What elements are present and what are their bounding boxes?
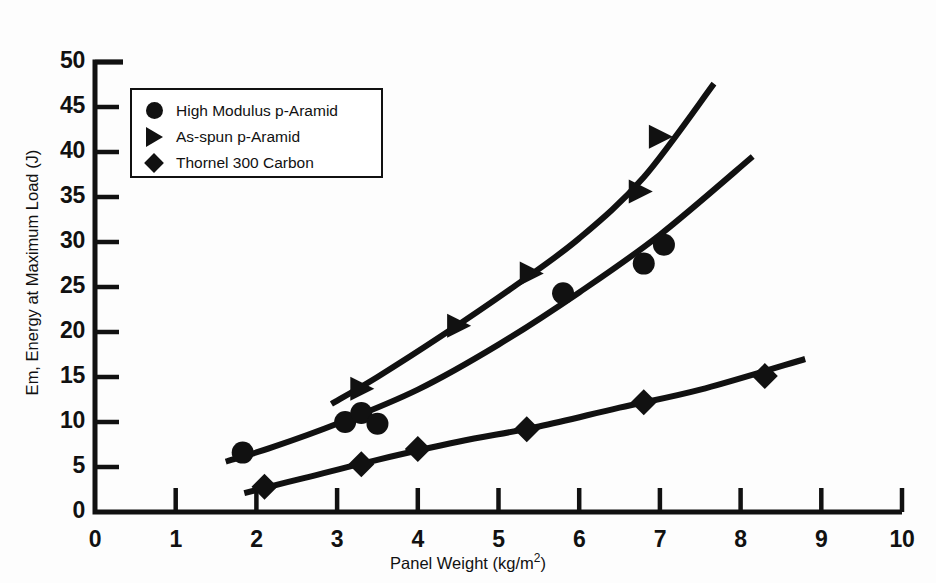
data-point-marker bbox=[552, 282, 574, 304]
legend-label: High Modulus p-Aramid bbox=[176, 102, 338, 120]
x-tick-label: 4 bbox=[398, 526, 438, 553]
diamond-marker-icon bbox=[132, 156, 176, 170]
x-tick-label: 10 bbox=[882, 526, 922, 553]
x-tick-label: 0 bbox=[75, 526, 115, 553]
legend-item-thornel-300-carbon: Thornel 300 Carbon bbox=[132, 149, 381, 176]
x-tick-label: 3 bbox=[317, 526, 357, 553]
chart-legend: High Modulus p-Aramid As-spun p-Aramid T… bbox=[130, 88, 383, 178]
y-tick-label: 50 bbox=[29, 47, 85, 74]
x-tick-label: 7 bbox=[640, 526, 680, 553]
data-point-marker bbox=[631, 389, 657, 415]
triangle-marker-icon bbox=[132, 127, 176, 147]
data-markers bbox=[232, 125, 778, 500]
y-tick-label: 0 bbox=[29, 497, 85, 524]
data-point-marker bbox=[348, 451, 374, 477]
y-axis-title: Em, Energy at Maximum Load (J) bbox=[23, 108, 42, 438]
x-axis-title-suffix: ) bbox=[540, 554, 546, 572]
data-point-marker bbox=[653, 234, 675, 256]
x-tick-label: 8 bbox=[721, 526, 761, 553]
x-tick-label: 6 bbox=[559, 526, 599, 553]
data-point-marker bbox=[232, 442, 254, 464]
x-tick-label: 5 bbox=[479, 526, 519, 553]
x-tick-label: 9 bbox=[801, 526, 841, 553]
y-tick-label: 5 bbox=[29, 452, 85, 479]
x-axis-title: Panel Weight (kg/m2) bbox=[0, 551, 936, 573]
chart-figure: 05101520253035404550 012345678910 Em, En… bbox=[0, 0, 936, 583]
legend-item-as-spun-p-aramid: As-spun p-Aramid bbox=[132, 123, 381, 150]
trend-curve bbox=[226, 157, 753, 462]
legend-label: As-spun p-Aramid bbox=[176, 128, 300, 146]
x-axis-title-prefix: Panel Weight (kg/m bbox=[390, 554, 534, 572]
legend-label: Thornel 300 Carbon bbox=[176, 154, 314, 172]
x-tick-label: 2 bbox=[236, 526, 276, 553]
data-point-marker bbox=[405, 436, 431, 462]
legend-item-high-modulus-p-aramid: High Modulus p-Aramid bbox=[132, 97, 381, 124]
data-point-marker bbox=[633, 253, 655, 275]
x-tick-label: 1 bbox=[156, 526, 196, 553]
data-point-marker bbox=[514, 416, 540, 442]
circle-marker-icon bbox=[132, 102, 176, 119]
data-point-marker bbox=[366, 413, 388, 435]
